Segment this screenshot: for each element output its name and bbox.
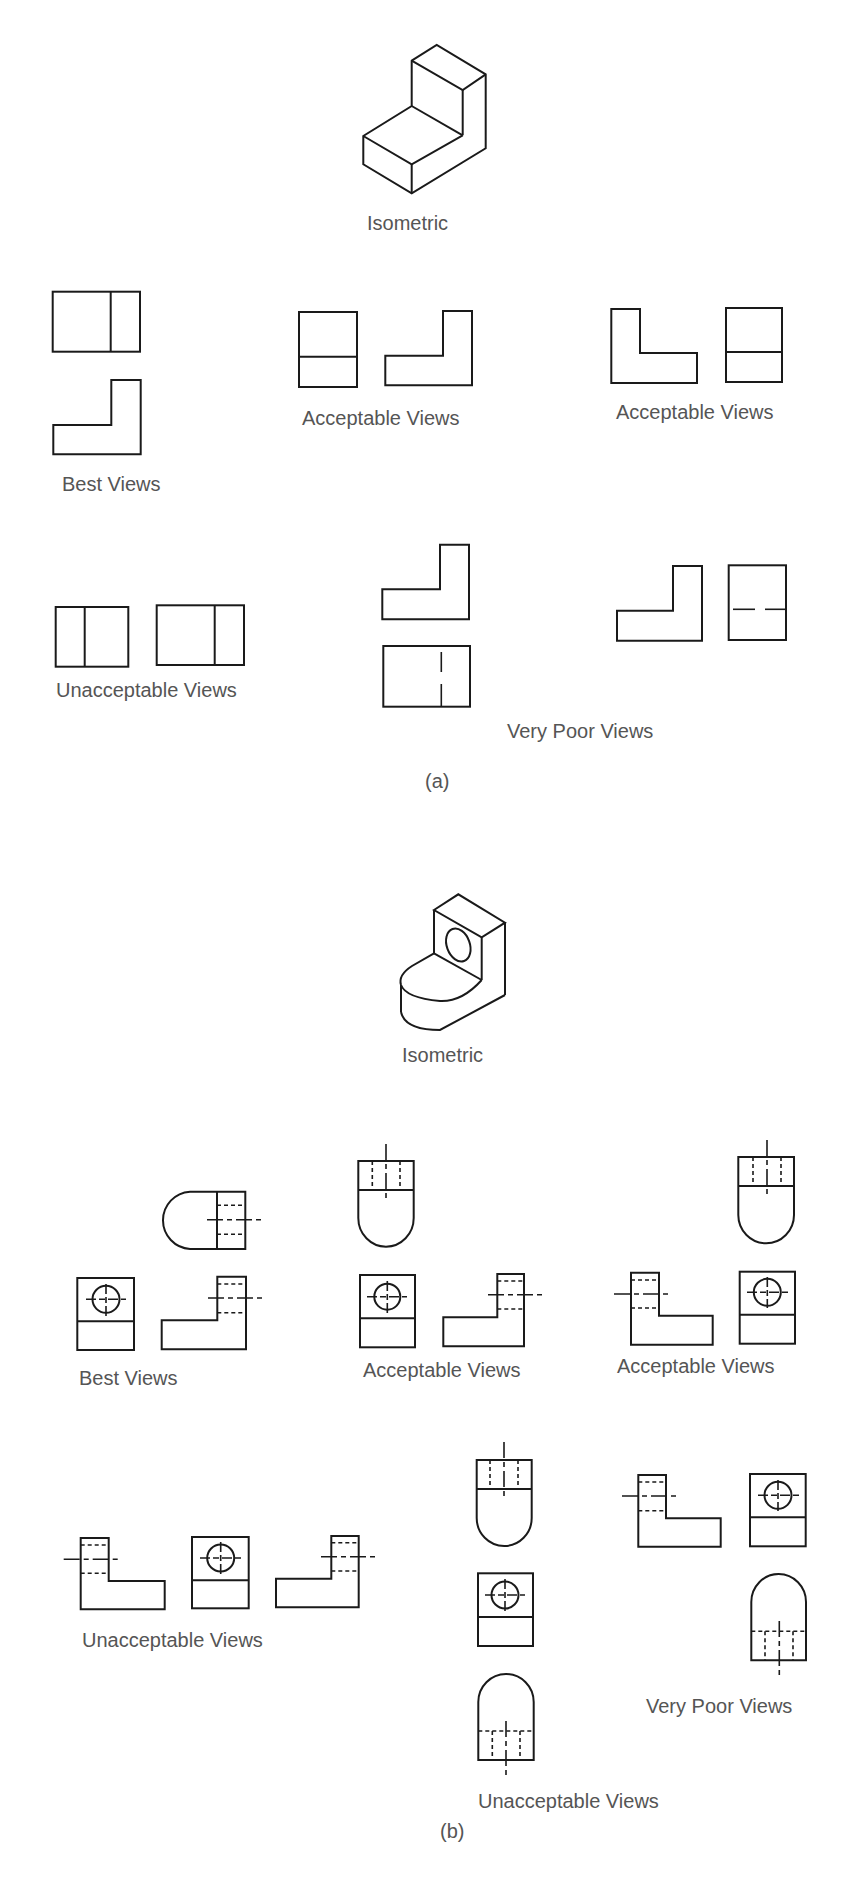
part-a-caption: (a): [425, 770, 449, 792]
very-poor-views-label-a: Very Poor Views: [507, 720, 653, 742]
best-views-label-b: Best Views: [79, 1367, 178, 1389]
unacceptable-views-2-label-b: Unacceptable Views: [478, 1790, 659, 1812]
best-views-b: [77, 1192, 262, 1350]
unacceptable-views-1-label-b: Unacceptable Views: [82, 1629, 263, 1651]
acceptable-views-2-label-a: Acceptable Views: [616, 401, 774, 423]
isometric-drawing-b: [400, 894, 505, 1030]
very-poor-views-b: [622, 1474, 806, 1677]
orthographic-views-figure: Isometric Best Views Acceptable Views Ac…: [0, 0, 852, 1892]
isometric-label-a: Isometric: [367, 212, 448, 234]
acceptable-views-2-label-b: Acceptable Views: [617, 1355, 775, 1377]
acceptable-views-1-b: [358, 1144, 542, 1347]
part-a: Isometric Best Views Acceptable Views Ac…: [53, 45, 786, 792]
acceptable-views-1-a: [299, 311, 472, 387]
unacceptable-views-label-a: Unacceptable Views: [56, 679, 237, 701]
acceptable-views-2-b: [614, 1140, 795, 1345]
very-poor-views-mid-a: [382, 545, 470, 707]
very-poor-views-right-a: [617, 565, 786, 640]
very-poor-views-label-b: Very Poor Views: [646, 1695, 792, 1717]
acceptable-views-1-label-b: Acceptable Views: [363, 1359, 521, 1381]
isometric-drawing-a: [363, 45, 485, 193]
unacceptable-views-a: [56, 605, 244, 666]
part-b-caption: (b): [440, 1820, 464, 1842]
best-views-label-a: Best Views: [62, 473, 161, 495]
isometric-label-b: Isometric: [402, 1044, 483, 1066]
acceptable-views-2-a: [611, 308, 782, 383]
part-b: Isometric Best Views: [64, 894, 806, 1842]
acceptable-views-1-label-a: Acceptable Views: [302, 407, 460, 429]
unacceptable-views-1-b: [64, 1536, 376, 1609]
best-views-a: [53, 292, 141, 455]
unacceptable-views-2-b: [477, 1442, 534, 1777]
